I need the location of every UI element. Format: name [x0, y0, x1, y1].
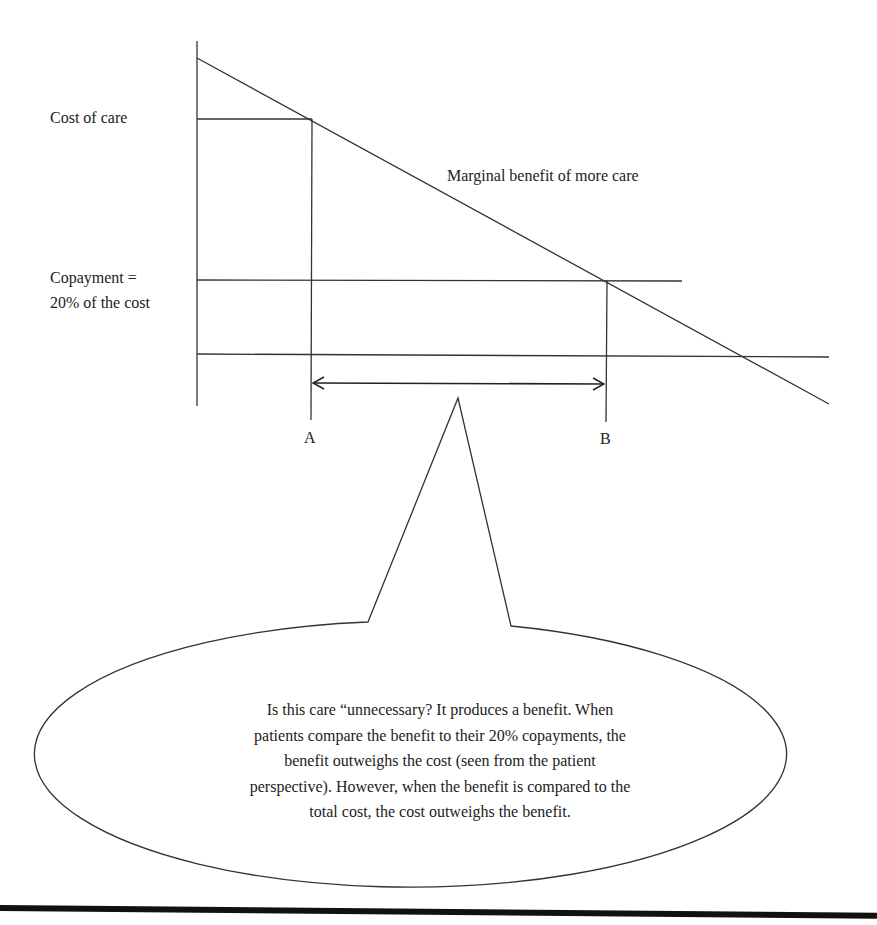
- copayment-label-line1: Copayment =: [50, 266, 137, 290]
- callout-line: patients compare the benefit to their 20…: [240, 723, 640, 749]
- callout-line: benefit outweighs the cost (seen from th…: [240, 748, 640, 774]
- point-b-label: B: [600, 427, 611, 451]
- callout-line: Is this care “unnecessary? It produces a…: [240, 697, 640, 723]
- baseline-line: [197, 354, 829, 357]
- marginal-benefit-label: Marginal benefit of more care: [447, 164, 639, 188]
- vertical-line-a: [311, 119, 312, 420]
- callout-line: total cost, the cost outweighs the benef…: [240, 799, 640, 825]
- copayment-line: [197, 280, 682, 281]
- point-a-label: A: [304, 426, 316, 450]
- copayment-label-line2: 20% of the cost: [50, 291, 150, 315]
- cost-of-care-label: Cost of care: [50, 106, 127, 130]
- range-arrow: [313, 383, 604, 384]
- callout-line: perspective). However, when the benefit …: [240, 774, 640, 800]
- marginal-benefit-line: [197, 58, 829, 404]
- vertical-line-b: [606, 281, 607, 422]
- callout-text: Is this care “unnecessary? It produces a…: [240, 697, 640, 825]
